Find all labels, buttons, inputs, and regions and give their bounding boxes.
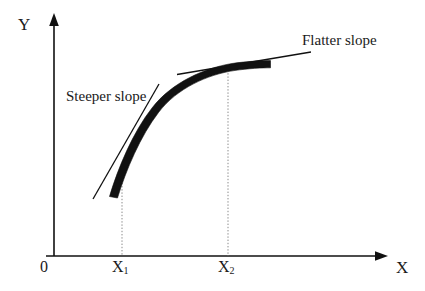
tick-label-x1: X1 xyxy=(112,259,129,275)
y-axis-label: Y xyxy=(18,16,30,33)
steeper-slope-annotation: Steeper slope xyxy=(66,89,146,104)
slope-diagram: Y X 0 X1 X2 Steeper slope Flatter slope xyxy=(0,0,425,291)
x-axis-label: X xyxy=(396,259,408,276)
y-axis-arrowhead xyxy=(49,13,59,26)
tick-label-x2: X2 xyxy=(218,259,235,275)
tick-label-x2-base: X xyxy=(218,258,230,275)
x-axis-arrowhead xyxy=(375,251,388,261)
flatter-slope-annotation: Flatter slope xyxy=(302,33,377,48)
tick-label-x1-base: X xyxy=(112,258,124,275)
tick-label-x2-subscript: 2 xyxy=(230,265,235,276)
tick-label-x1-subscript: 1 xyxy=(124,265,129,276)
origin-label: 0 xyxy=(40,259,48,275)
flatter-tangent-line xyxy=(177,52,311,75)
